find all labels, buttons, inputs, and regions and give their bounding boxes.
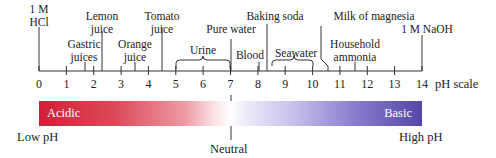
tick-label-0: 0 [36, 77, 42, 92]
label-seawater: Seawater [275, 47, 317, 60]
acidic-label: Acidic [47, 106, 80, 121]
tick-label-8: 8 [255, 77, 261, 92]
label-pure-water: Pure water [206, 23, 256, 36]
label-milk-of-magnesia: Milk of magnesia [333, 10, 414, 23]
tick-label-7: 7 [228, 77, 234, 92]
tick-label-14: 14 [416, 77, 428, 92]
label-lemon-juice: Lemon juice [86, 10, 119, 35]
label-gastric-juices: Gastric juices [67, 38, 100, 63]
basic-label: Basic [384, 106, 412, 121]
tick-label-12: 12 [361, 77, 373, 92]
label-urine: Urine [190, 44, 216, 57]
high-ph-label: High pH [399, 130, 442, 145]
label-naoh: 1 M NaOH [401, 23, 453, 36]
label-baking-soda: Baking soda [246, 10, 303, 23]
tick-label-11: 11 [334, 77, 346, 92]
tick-label-13: 13 [389, 77, 401, 92]
label-orange-juice: Orange juice [118, 38, 152, 63]
tick-label-9: 9 [282, 77, 288, 92]
tick-label-3: 3 [118, 77, 124, 92]
label-household-ammonia: Household ammonia [330, 38, 380, 63]
label-hcl: 1 M HCl [29, 3, 48, 28]
low-ph-label: Low pH [17, 130, 58, 145]
tick-label-2: 2 [91, 77, 97, 92]
label-tomato-juice: Tomato juice [145, 10, 180, 35]
tick-label-4: 4 [145, 77, 151, 92]
tick-label-1: 1 [63, 77, 69, 92]
tick-label-10: 10 [307, 77, 319, 92]
label-blood: Blood [236, 49, 264, 62]
axis-title: pH scale [435, 77, 478, 92]
neutral-label: Neutral [210, 142, 247, 157]
tick-label-6: 6 [200, 77, 206, 92]
tick-label-5: 5 [173, 77, 179, 92]
acid-base-gradient-bar: Acidic Basic [39, 101, 422, 126]
